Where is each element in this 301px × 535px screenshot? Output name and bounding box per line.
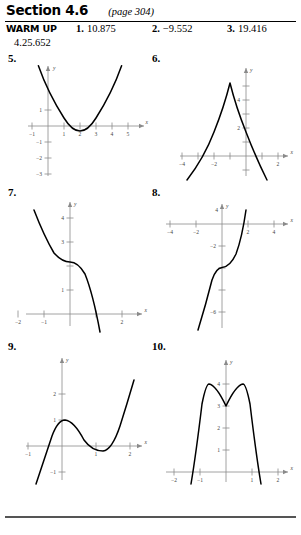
- curve-problem-5: [38, 66, 121, 131]
- y-axis-arrow: [68, 202, 72, 207]
- footer-divider: [5, 516, 296, 518]
- problem-9: 9. −1 1 2 1 2 −1 x y: [8, 340, 150, 490]
- y-axis-label: y: [73, 201, 77, 207]
- x-tick-label: 1: [95, 451, 98, 457]
- warm-up-answer-3: 3.19.416: [227, 23, 267, 34]
- y-tick-label: 4: [215, 207, 218, 213]
- answer-key-page: Section 4.6 (page 304) WARM UP 1.10.875 …: [0, 0, 301, 535]
- y-tick-label: −6: [210, 309, 216, 315]
- answer-value: −9.552: [163, 23, 193, 34]
- problem-number: 5.: [8, 52, 16, 64]
- graph-9: −1 1 2 1 2 −1 x y: [22, 354, 148, 484]
- x-tick-label: 2: [247, 229, 250, 235]
- x-axis-arrow: [283, 222, 288, 226]
- y-tick-label: 1: [61, 287, 64, 293]
- answer-value: 19.416: [238, 23, 267, 34]
- y-tick-label: 3: [61, 239, 64, 245]
- graph-5-svg: −1 1 2 3 4 5 1 −1 −2 −3 x y: [22, 60, 150, 180]
- y-axis-label: y: [225, 203, 229, 209]
- y-axis-arrow: [244, 68, 248, 73]
- x-tick-label: −4: [179, 161, 185, 167]
- graph-5: −1 1 2 3 4 5 1 −1 −2 −3 x y: [22, 60, 150, 180]
- graph-7-svg: −2 −1 2 1 3 4 x y: [22, 196, 148, 332]
- x-axis-arrow: [137, 444, 142, 448]
- problem-5: 5. −1 1 2: [8, 52, 150, 180]
- y-tick-label: −1: [36, 139, 42, 145]
- x-tick-label: 5: [127, 131, 130, 137]
- x-axis-arrow: [283, 154, 288, 158]
- x-tick-label: −1: [29, 131, 35, 137]
- y-tick-label: −3: [36, 171, 42, 177]
- x-axis-label: x: [144, 439, 148, 445]
- graph-6-svg: −4 −2 2 2 4 x y: [160, 62, 294, 180]
- y-axis-label: y: [52, 65, 56, 71]
- warm-up-label: WARM UP: [6, 23, 57, 34]
- x-tick-label: −2: [171, 477, 177, 483]
- y-tick-label: 2: [53, 391, 56, 397]
- problem-6: 6. −4 −2: [152, 52, 297, 180]
- warm-up-answer-1: 1.10.875: [76, 23, 116, 34]
- graph-8: −4 −2 2 4 4 −2 −6 x y: [160, 200, 294, 330]
- graph-8-svg: −4 −2 2 4 4 −2 −6 x y: [160, 200, 294, 330]
- problem-number: 10.: [152, 340, 166, 352]
- graph-10: −2 −1 1 2 1 2 3 4 x y: [160, 354, 294, 484]
- warm-up-answer-4: 4.25.652: [14, 37, 51, 48]
- y-tick-label: 3: [217, 403, 220, 409]
- answer-number: 2.: [152, 23, 160, 34]
- x-tick-label: 3: [95, 131, 98, 137]
- x-tick-label: 2: [79, 131, 82, 137]
- x-axis-label: x: [290, 217, 294, 223]
- y-axis-arrow: [224, 360, 228, 365]
- y-tick-label: 1: [217, 447, 220, 453]
- y-tick-label: 2: [237, 125, 240, 131]
- problem-number: 6.: [152, 52, 160, 64]
- problem-number: 8.: [152, 186, 160, 198]
- problem-number: 9.: [8, 340, 16, 352]
- x-tick-label: 2: [129, 451, 132, 457]
- x-tick-label: −2: [15, 319, 21, 325]
- problem-10: 10. −2 −1 1 2 1 2: [152, 340, 297, 490]
- answer-value: 10.875: [87, 23, 116, 34]
- graph-7: −2 −1 2 1 3 4 x y: [22, 196, 148, 332]
- y-tick-label: 4: [237, 97, 240, 103]
- y-tick-label: 1: [39, 107, 42, 113]
- x-tick-label: −1: [25, 451, 31, 457]
- graph-10-svg: −2 −1 1 2 1 2 3 4 x y: [160, 354, 294, 484]
- y-tick-label: 4: [217, 381, 220, 387]
- x-tick-label: 1: [63, 131, 66, 137]
- x-tick-label: −1: [41, 319, 47, 325]
- x-tick-label: 2: [277, 161, 280, 167]
- x-axis-label: x: [144, 307, 148, 313]
- y-axis-arrow: [46, 66, 50, 71]
- y-tick-label: −2: [210, 243, 216, 249]
- warm-up-row: WARM UP 1.10.875 2.−9.552 3.19.416: [6, 23, 296, 37]
- graph-6: −4 −2 2 2 4 x y: [160, 62, 294, 180]
- warm-up-answer-2: 2.−9.552: [152, 23, 192, 34]
- page-header: Section 4.6 (page 304): [6, 2, 295, 18]
- x-tick-label: 2: [277, 477, 280, 483]
- y-tick-label: 4: [61, 215, 64, 221]
- x-axis-arrow: [283, 470, 288, 474]
- x-tick-label: −4: [167, 229, 173, 235]
- y-axis-arrow: [220, 204, 224, 209]
- y-axis-arrow: [60, 358, 64, 363]
- answer-number: 3.: [227, 23, 235, 34]
- problem-8: 8. −4 −2 2 4 4 −2: [152, 186, 297, 336]
- y-axis-label: y: [65, 357, 69, 363]
- curve-problem-6: [187, 83, 267, 180]
- x-axis-label: x: [290, 149, 294, 155]
- y-axis-label: y: [229, 359, 233, 365]
- x-axis-label: x: [145, 119, 149, 125]
- answer-number: 4.: [14, 37, 22, 48]
- section-title: Section 4.6: [6, 2, 88, 18]
- y-tick-label: 1: [53, 417, 56, 423]
- x-tick-label: −1: [197, 477, 203, 483]
- problem-number: 7.: [8, 186, 16, 198]
- y-tick-label: −2: [36, 155, 42, 161]
- problem-7: 7. −2 −1 2 1 3 4: [8, 186, 150, 336]
- graph-9-svg: −1 1 2 1 2 −1 x y: [22, 354, 148, 484]
- x-tick-label: 4: [273, 229, 276, 235]
- answer-value: 25.652: [22, 37, 51, 48]
- page-reference: (page 304): [108, 6, 154, 17]
- x-tick-label: −2: [211, 161, 217, 167]
